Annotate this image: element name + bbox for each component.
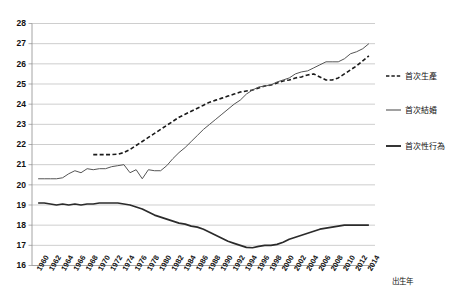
- y-axis-tick-label: 27: [17, 38, 27, 48]
- y-axis-tick-label: 18: [17, 220, 27, 230]
- series-group: [38, 44, 369, 248]
- y-axis-tick-label: 24: [17, 99, 27, 109]
- legend-label-2: 首次結婚: [405, 105, 437, 115]
- y-axis-tick-label: 21: [17, 159, 27, 169]
- y-axis-tick-label: 22: [17, 139, 27, 149]
- y-axis-tick-label: 23: [17, 119, 27, 129]
- y-axis-tick-label: 20: [17, 180, 27, 190]
- chart-container: 1617181920212223242526272819601962196419…: [0, 0, 455, 301]
- legend-label-3: 首次性行為: [405, 141, 445, 151]
- y-axis-tick-label: 19: [17, 200, 27, 210]
- y-axis-tick-label: 26: [17, 59, 27, 69]
- legend: 首次生產首次結婚首次性行為: [386, 71, 445, 151]
- x-axis-tick-label: 2014: [365, 253, 382, 273]
- line-chart: 1617181920212223242526272819601962196419…: [0, 0, 455, 301]
- legend-label-1: 首次生產: [405, 71, 437, 81]
- y-axis-tick-label: 17: [17, 240, 27, 250]
- y-axis-tick-label: 16: [17, 260, 27, 270]
- x-axis-title: 出生年: [392, 276, 414, 286]
- y-axis-tick-label: 28: [17, 18, 27, 28]
- gridlines: 16171819202122232425262728: [17, 18, 375, 270]
- y-axis-tick-label: 25: [17, 79, 27, 89]
- series-line-1: [93, 56, 369, 155]
- x-axis-ticks: 1960196219641966196819701972197419761978…: [35, 253, 382, 273]
